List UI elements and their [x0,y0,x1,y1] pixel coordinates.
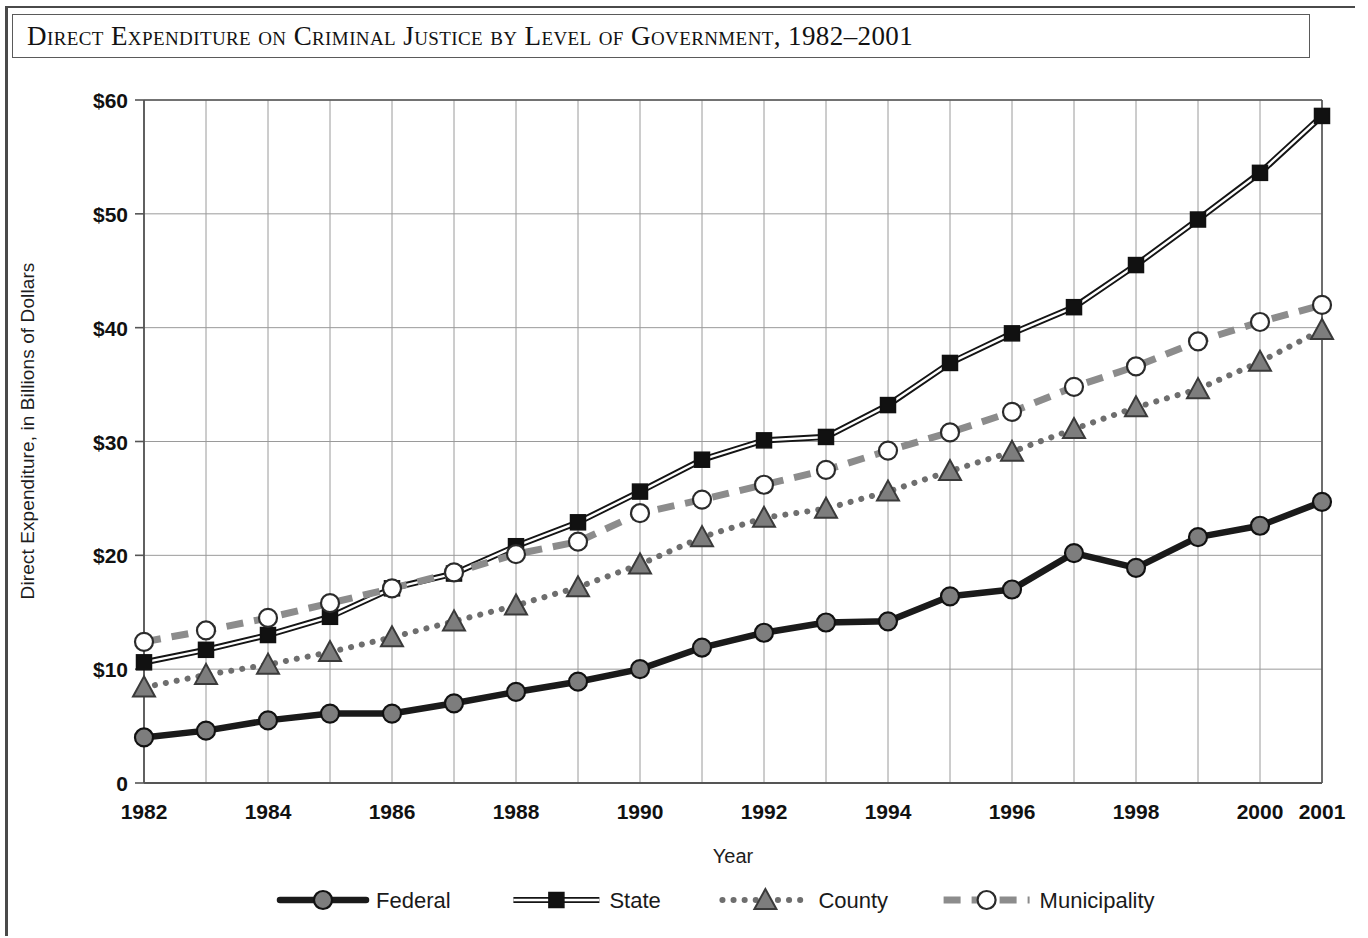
series-line-outer [144,116,1322,662]
y-tick-label: $50 [93,203,128,226]
x-tick-label: 2000 [1237,800,1284,823]
legend-label: County [818,888,888,913]
x-tick-label: 1990 [617,800,664,823]
marker-circle-open [817,461,835,479]
x-tick-label: 1982 [121,800,168,823]
marker-circle-open [135,633,153,651]
chart-figure: Direct Expenditure on Criminal Justice b… [0,0,1368,938]
marker-circle-filled [1189,528,1207,546]
marker-square-filled [695,452,710,467]
x-tick-label: 1986 [369,800,416,823]
legend-label: State [609,888,660,913]
marker-circle-filled [197,722,215,740]
marker-square-filled [137,655,152,670]
marker-circle-filled [1313,493,1331,511]
series-line-inner [144,116,1322,662]
marker-triangle-filled [1249,351,1271,371]
marker-circle-filled [817,613,835,631]
marker-circle-open [321,594,339,612]
legend-label: Federal [376,888,451,913]
marker-circle-filled [1251,517,1269,535]
marker-circle-open [1251,313,1269,331]
x-tick-label: 1996 [989,800,1036,823]
marker-square-filled [757,433,772,448]
x-tick-label: 1984 [245,800,292,823]
marker-square-filled [199,642,214,657]
plot-container: $60$50$40$30$20$100198219841986198819901… [0,0,1368,938]
marker-circle-filled [383,705,401,723]
marker-circle-open [879,442,897,460]
y-tick-label: $30 [93,431,128,454]
marker-square-filled [1129,258,1144,273]
marker-circle-open [693,491,711,509]
series-line [144,305,1322,642]
marker-square-filled [943,355,958,370]
legend-item-municipality[interactable]: Municipality [944,888,1155,913]
x-axis-title: Year [713,845,754,867]
marker-square-filled [571,515,586,530]
marker-circle-filled [569,673,587,691]
marker-circle-open [631,504,649,522]
marker-circle-open [941,423,959,441]
marker-circle-open [197,621,215,639]
marker-circle-filled [1003,580,1021,598]
x-tick-label: 1992 [741,800,788,823]
marker-circle-open [1003,403,1021,421]
y-tick-label: $20 [93,544,128,567]
marker-circle-filled [445,694,463,712]
marker-triangle-filled [629,553,651,573]
marker-circle-filled [259,711,277,729]
marker-circle-open [1189,332,1207,350]
marker-circle-open [569,533,587,551]
marker-circle-filled [1065,544,1083,562]
marker-square-filled [1315,108,1330,123]
marker-circle-open [978,891,996,909]
legend-label: Municipality [1040,888,1155,913]
marker-circle-filled [631,660,649,678]
marker-circle-open [755,476,773,494]
marker-circle-open [1313,296,1331,314]
x-tick-label: 1994 [865,800,912,823]
y-axis-title: Direct Expenditure, in Billions of Dolla… [17,231,39,631]
marker-square-filled [819,429,834,444]
marker-circle-filled [941,587,959,605]
x-tick-label: 1988 [493,800,540,823]
marker-circle-open [383,579,401,597]
marker-square-filled [261,628,276,643]
series-line [144,330,1322,687]
marker-circle-filled [879,612,897,630]
marker-circle-open [507,545,525,563]
marker-square-filled [1067,300,1082,315]
marker-circle-filled [135,728,153,746]
y-tick-label: $60 [93,89,128,112]
marker-square-filled [881,398,896,413]
y-tick-label: $10 [93,658,128,681]
marker-circle-filled [321,705,339,723]
x-tick-label: 2001 [1299,800,1346,823]
marker-circle-open [1065,378,1083,396]
marker-circle-open [445,563,463,581]
legend-item-county[interactable]: County [722,888,888,913]
series-state [137,108,1330,669]
y-tick-label: $40 [93,317,128,340]
x-tick-label: 1998 [1113,800,1160,823]
marker-square-filled [1005,326,1020,341]
marker-circle-filled [507,683,525,701]
legend-item-federal[interactable]: Federal [280,888,451,913]
marker-triangle-filled [1187,378,1209,398]
line-chart-svg: $60$50$40$30$20$100198219841986198819901… [0,0,1368,938]
legend-item-state[interactable]: State [513,888,660,913]
marker-square-filled [633,484,648,499]
marker-circle-filled [755,624,773,642]
marker-triangle-filled [381,626,403,646]
marker-square-filled [1191,212,1206,227]
marker-circle-filled [314,891,332,909]
marker-square-filled [549,893,564,908]
y-tick-label: 0 [116,772,128,795]
marker-circle-open [1127,357,1145,375]
series-municipality [135,296,1331,651]
marker-circle-filled [1127,559,1145,577]
marker-circle-filled [693,639,711,657]
marker-triangle-filled [133,676,155,696]
marker-circle-open [259,609,277,627]
